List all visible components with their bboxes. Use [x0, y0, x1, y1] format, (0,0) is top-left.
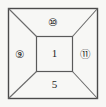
face-label-center: 1: [36, 48, 73, 59]
face-label-bottom: 5: [36, 79, 73, 90]
face-label-right: ⑪: [76, 49, 94, 60]
face-label-left: ⑨: [12, 49, 28, 60]
diagram-canvas: ⑩ ⑨ ⑪ 1 5: [0, 0, 106, 107]
face-label-top: ⑩: [0, 17, 106, 28]
